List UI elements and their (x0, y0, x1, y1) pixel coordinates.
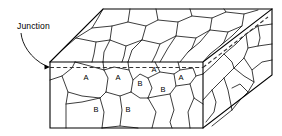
front-face (50, 62, 203, 128)
grain-label-b3: B (93, 105, 98, 114)
grain-label-b2: B (160, 85, 165, 94)
figure-root: AAAABBBB Junction (0, 0, 282, 136)
grain-label-a3: A (151, 65, 156, 74)
junction-arrowhead (45, 64, 51, 69)
junction-callout-label: Junction (17, 21, 50, 31)
junction-leader-line (21, 33, 46, 66)
grain-label-b1: B (137, 79, 142, 88)
grain-label-a1: A (83, 73, 88, 82)
grain-junction-diagram: AAAABBBB Junction (0, 0, 282, 136)
grain-label-b4: B (125, 105, 130, 114)
grain-label-a4: A (178, 73, 183, 82)
grain-label-a2: A (115, 73, 120, 82)
